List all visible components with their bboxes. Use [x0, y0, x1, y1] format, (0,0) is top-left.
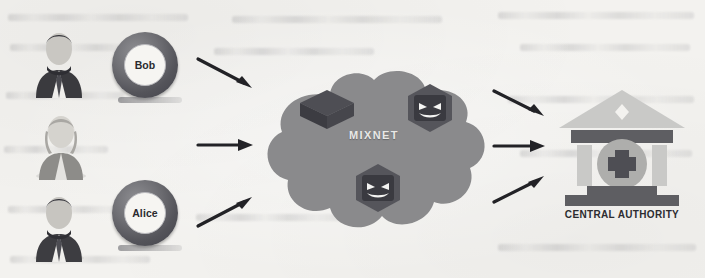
malicious-mix-node-2 [348, 162, 408, 214]
central-authority-label: CENTRAL AUTHORITY [545, 209, 699, 220]
bleed-through-text [520, 44, 690, 51]
arrow-david-to-mixnet [196, 194, 258, 230]
arrow-mixnet-to-authority-middle [492, 137, 550, 155]
sender-name-label: Bob [135, 60, 156, 71]
avatar-bob [28, 22, 90, 98]
ring-inner-circle: Bob [124, 44, 166, 86]
bleed-through-text [498, 12, 694, 19]
arrow-alice-to-mixnet [196, 136, 258, 154]
user-ring-badge-bob: Bob [112, 32, 178, 98]
mixnet-cloud-group: MIXNET [256, 62, 492, 234]
malicious-mix-node-1 [400, 82, 460, 134]
bleed-through-text [214, 48, 374, 55]
avatar-alice [30, 104, 92, 180]
arrow-mixnet-to-authority-top [492, 88, 550, 120]
user-ring-badge-alice: Alice [112, 180, 178, 246]
mixnet-diagram-figure: Bob Alice David [0, 0, 705, 278]
bleed-through-text [498, 244, 696, 251]
sender-name-label: Alice [132, 208, 158, 219]
classical-bank-building-icon [557, 88, 687, 208]
avatar-david [28, 186, 90, 262]
arrow-mixnet-to-authority-bottom [492, 172, 550, 206]
central-authority-group: CENTRAL AUTHORITY [557, 88, 687, 238]
arrow-bob-to-mixnet [196, 56, 258, 92]
bleed-through-text [8, 14, 188, 21]
honest-mix-node [296, 86, 358, 134]
ring-inner-circle: Alice [124, 192, 166, 234]
bleed-through-text [232, 16, 442, 23]
